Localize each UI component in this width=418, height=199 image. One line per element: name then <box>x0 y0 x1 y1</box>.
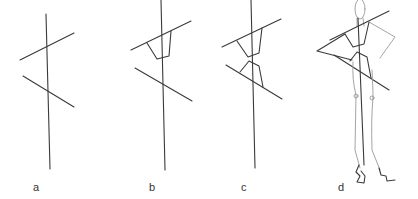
hip-line <box>334 55 389 90</box>
shoulder-line <box>330 11 389 40</box>
panel-label-c: c <box>241 181 247 193</box>
panel-a-drawing <box>20 14 74 169</box>
left-foot <box>356 165 365 183</box>
right-arm <box>369 22 395 58</box>
panel-label-d: d <box>338 181 344 193</box>
right-knee <box>370 96 374 100</box>
lower-torso-block <box>240 61 263 87</box>
neck <box>363 18 364 26</box>
shoulder-line <box>131 21 191 50</box>
panel-d-drawing <box>317 0 395 183</box>
construction-diagram <box>0 0 418 199</box>
panel-c-drawing <box>222 0 282 168</box>
balance-line <box>358 18 364 165</box>
upper-torso-block <box>237 28 262 57</box>
panel-label-b: b <box>149 181 155 193</box>
hip-line <box>226 65 282 99</box>
right-foot <box>379 168 395 181</box>
right-leg <box>372 70 380 170</box>
panel-label-a: a <box>33 181 39 193</box>
balance-line <box>251 0 255 168</box>
left-leg <box>353 62 360 168</box>
torso-block <box>147 31 171 59</box>
panel-b-drawing <box>131 0 192 170</box>
head <box>355 0 365 19</box>
